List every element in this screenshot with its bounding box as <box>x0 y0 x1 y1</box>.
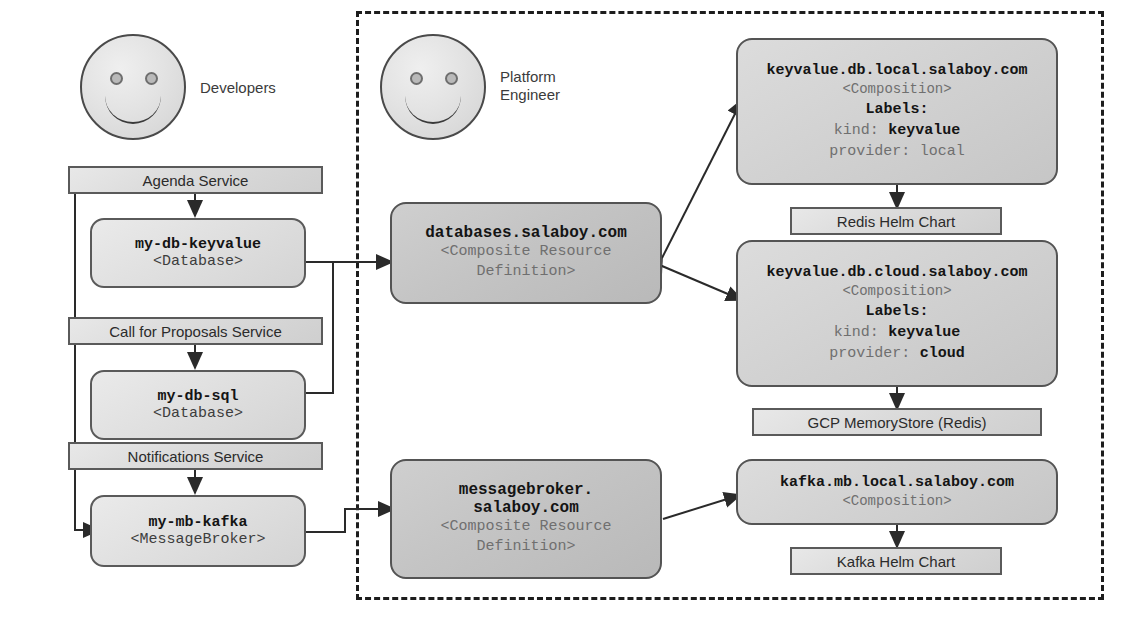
composition-kind: <Composition> <box>842 281 951 301</box>
avatar-eye-left <box>410 72 423 85</box>
xrd-kind-line2: Definition> <box>476 537 575 557</box>
composition-box-keyvalue-cloud[interactable]: keyvalue.db.cloud.salaboy.com <Compositi… <box>736 240 1058 387</box>
label-provider-row: provider: local <box>829 141 965 162</box>
edge-sql-out <box>306 392 334 394</box>
labels-heading: Labels: <box>865 301 928 322</box>
composition-box-keyvalue-local[interactable]: keyvalue.db.local.salaboy.com <Compositi… <box>736 38 1058 185</box>
avatar-eye-right <box>445 72 458 85</box>
edge-mbkafka-in <box>344 508 392 510</box>
platform-engineer-avatar <box>380 34 486 140</box>
claim-box-my-db-keyvalue[interactable]: my-db-keyvalue <Database> <box>90 218 306 288</box>
platform-engineer-label: Platform Engineer <box>500 68 560 104</box>
label-kind-key: kind: <box>834 324 879 341</box>
labels-heading: Labels: <box>865 99 928 120</box>
resource-label: Kafka Helm Chart <box>837 553 955 570</box>
edge-mbkafka-out <box>306 531 346 533</box>
xrd-name-line2: salaboy.com <box>473 499 579 517</box>
label-provider-key: provider: <box>829 345 910 362</box>
xrd-name-line1: messagebroker. <box>459 481 593 499</box>
label-kind-value: keyvalue <box>888 324 960 341</box>
label-provider-row: provider: cloud <box>829 343 965 364</box>
claim-box-my-mb-kafka[interactable]: my-mb-kafka <MessageBroker> <box>90 495 306 567</box>
resource-box-redis-helm-chart[interactable]: Redis Helm Chart <box>790 207 1002 235</box>
claim-name: my-db-sql <box>157 388 238 405</box>
edge-kafka-to-helm <box>896 524 898 546</box>
claim-kind: <Database> <box>153 405 243 422</box>
label-kind-key: kind: <box>834 122 879 139</box>
composition-name: keyvalue.db.cloud.salaboy.com <box>766 264 1027 281</box>
edge-keyvalue-out <box>306 261 368 263</box>
claim-kind: <MessageBroker> <box>130 531 265 548</box>
xrd-kind-line1: <Composite Resource <box>440 517 611 537</box>
xrd-name: databases.salaboy.com <box>425 224 627 242</box>
service-label: Call for Proposals Service <box>109 323 282 340</box>
avatar-mouth <box>405 94 461 124</box>
avatar-eye-left <box>110 72 123 85</box>
service-box-call-for-proposals[interactable]: Call for Proposals Service <box>68 317 323 345</box>
edge-cfp-to-sql <box>194 345 196 367</box>
resource-label: Redis Helm Chart <box>837 213 955 230</box>
developers-avatar <box>80 34 186 140</box>
developers-label: Developers <box>200 79 276 97</box>
composition-box-kafka-local[interactable]: kafka.mb.local.salaboy.com <Composition> <box>736 459 1058 525</box>
resource-box-gcp-memorystore[interactable]: GCP MemoryStore (Redis) <box>752 408 1042 436</box>
xrd-kind-line2: Definition> <box>476 262 575 282</box>
edge-cloud-to-gcp <box>896 386 898 408</box>
edge-notifications-to-kafka <box>194 470 196 492</box>
claim-name: my-mb-kafka <box>148 514 247 531</box>
service-label: Agenda Service <box>143 172 249 189</box>
claim-box-my-db-sql[interactable]: my-db-sql <Database> <box>90 370 306 440</box>
composition-kind: <Composition> <box>842 79 951 99</box>
label-kind-row: kind: keyvalue <box>834 120 961 141</box>
edge-agenda-to-keyvalue <box>194 193 196 215</box>
composition-name: keyvalue.db.local.salaboy.com <box>766 62 1027 79</box>
resource-label: GCP MemoryStore (Redis) <box>808 414 987 431</box>
label-kind-value: keyvalue <box>888 122 960 139</box>
edge-mbkafka-riser <box>344 508 346 533</box>
edge-sql-riser <box>332 261 334 394</box>
label-provider-value: local <box>920 143 965 160</box>
service-label: Notifications Service <box>128 448 264 465</box>
service-box-notifications[interactable]: Notifications Service <box>68 442 323 470</box>
composition-kind: <Composition> <box>842 491 951 511</box>
xrd-box-messagebroker[interactable]: messagebroker. salaboy.com <Composite Re… <box>390 459 662 579</box>
service-box-agenda[interactable]: Agenda Service <box>68 166 323 194</box>
label-provider-key: provider: <box>829 143 910 160</box>
resource-box-kafka-helm-chart[interactable]: Kafka Helm Chart <box>790 547 1002 575</box>
label-kind-row: kind: keyvalue <box>834 322 961 343</box>
label-provider-value: cloud <box>920 345 965 362</box>
composition-name: kafka.mb.local.salaboy.com <box>780 474 1014 491</box>
edge-left-bus-vertical <box>74 179 76 531</box>
xrd-box-databases[interactable]: databases.salaboy.com <Composite Resourc… <box>390 202 662 304</box>
avatar-eye-right <box>145 72 158 85</box>
xrd-kind-line1: <Composite Resource <box>440 242 611 262</box>
avatar-mouth <box>105 94 161 124</box>
edge-local-to-redis <box>896 185 898 207</box>
claim-name: my-db-keyvalue <box>135 236 261 253</box>
diagram-canvas: Developers Platform Engineer Agenda Serv… <box>0 0 1146 621</box>
claim-kind: <Database> <box>153 253 243 270</box>
